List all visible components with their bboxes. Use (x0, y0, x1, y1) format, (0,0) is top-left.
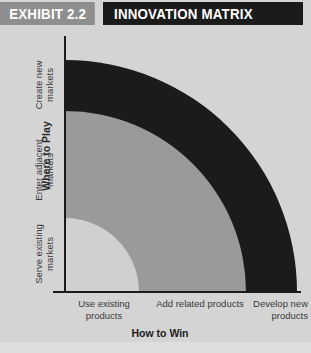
y-tick-label-enter-adjacent-markets: Enter adjacent markets (33, 122, 55, 218)
y-axis-line (64, 36, 66, 293)
y-tick-label-create-new-markets: Create new markets (33, 37, 55, 133)
exhibit-number-tag: EXHIBIT 2.2 (0, 2, 94, 25)
x-tick-label-use-existing-products: Use existing products (62, 298, 146, 321)
x-tick-label-add-related-products: Add related products (148, 298, 252, 310)
x-axis-title: How to Win (110, 327, 210, 339)
x-tick-label-develop-new-products: Develop new products (250, 298, 308, 321)
exhibit-figure: EXHIBIT 2.2 INNOVATION MATRIX Where to P… (0, 0, 311, 353)
y-tick-label-serve-existing-markets: Serve existing markets (33, 206, 55, 302)
exhibit-header: EXHIBIT 2.2 INNOVATION MATRIX (0, 2, 303, 25)
x-axis-line (64, 291, 301, 293)
exhibit-title: INNOVATION MATRIX (114, 6, 253, 22)
chart-plot-area (65, 36, 301, 292)
footer-strip (0, 342, 311, 353)
exhibit-title-bar: INNOVATION MATRIX (103, 2, 303, 25)
